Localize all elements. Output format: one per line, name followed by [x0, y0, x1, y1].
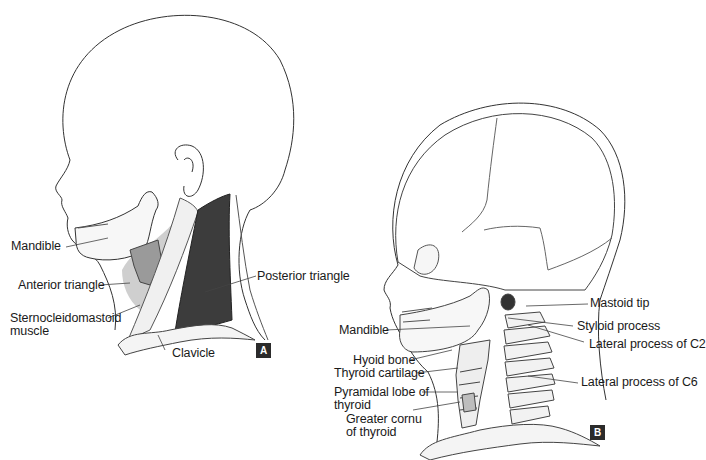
label-sternocleidomastoid-line2: muscle [10, 325, 49, 338]
label-clavicle: Clavicle [172, 347, 215, 360]
panel-a-drawing [56, 15, 294, 355]
label-thyroid-cartilage: Thyroid cartilage [334, 367, 425, 380]
label-greater-cornu-line2: of thyroid [346, 426, 396, 439]
orbit-b [414, 245, 439, 274]
label-mastoid-tip: Mastoid tip [590, 297, 649, 310]
label-pyramidal-lobe-line2: thyroid [334, 399, 371, 412]
panel-b-drawing [384, 103, 625, 460]
label-anterior-triangle: Anterior triangle [18, 279, 105, 292]
clavicle-b [420, 424, 600, 460]
label-styloid-process: Styloid process [577, 320, 660, 333]
label-posterior-triangle: Posterior triangle [257, 270, 350, 283]
ear-a-inner [184, 158, 193, 172]
lambdoid-suture [484, 226, 612, 270]
label-lateral-process-c6: Lateral process of C6 [581, 376, 698, 389]
label-lateral-process-c2: Lateral process of C2 [589, 338, 706, 351]
panel-badge-b: B [590, 425, 605, 440]
larynx-trachea [456, 340, 490, 428]
coronal-suture [462, 118, 497, 232]
label-mandible-a: Mandible [11, 240, 61, 253]
panel-badge-a: A [256, 343, 271, 358]
cervical-spine [501, 294, 555, 424]
ear-a [175, 145, 203, 196]
label-mandible-b: Mandible [339, 324, 389, 337]
